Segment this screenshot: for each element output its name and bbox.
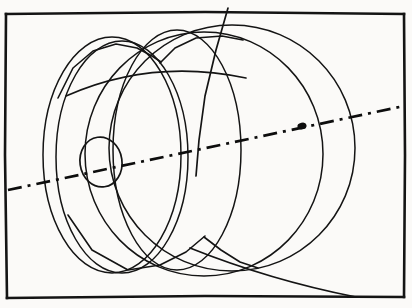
sketch-figure: [0, 0, 412, 308]
sketch-canvas: [0, 0, 412, 308]
canvas-background: [0, 0, 412, 308]
